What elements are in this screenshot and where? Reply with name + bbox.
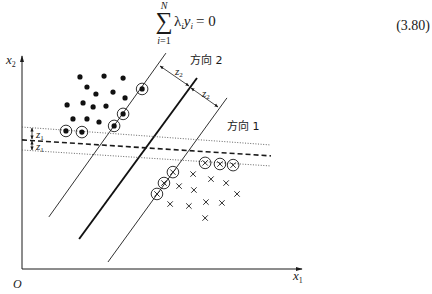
- dot-marker: [101, 73, 106, 78]
- negative-point: [202, 215, 207, 220]
- z2-label-lower: z2: [201, 87, 210, 101]
- direction-1-separator: [22, 140, 271, 156]
- negative-support-vectors-point: [214, 158, 226, 170]
- dot-marker: [91, 104, 96, 109]
- equation-rhs: = 0: [196, 13, 216, 29]
- sum-lower-limit: i=1: [157, 35, 170, 46]
- positive-point: [77, 74, 82, 79]
- negative-support-vectors-point: [199, 157, 211, 169]
- dot-marker: [93, 91, 98, 96]
- direction-2-label: 方向 2: [190, 53, 223, 67]
- positive-point: [64, 102, 69, 107]
- dot-marker: [84, 116, 89, 121]
- positive-support-vectors-point: [76, 126, 88, 138]
- direction-1-margin-bottom: [22, 150, 271, 166]
- y-subscript: i: [190, 21, 193, 31]
- x2-axis-label: x2: [5, 52, 16, 69]
- direction-2-margin-right: [108, 98, 227, 262]
- negative-support-vectors-series: [151, 157, 239, 200]
- dot-marker: [70, 116, 75, 121]
- svm-margin-figure: ∑ N i=1 λiyi= 0 (3.80) x2 x1 O z2: [0, 0, 432, 294]
- negative-point: [219, 200, 224, 205]
- dot-marker: [122, 95, 127, 100]
- dot-marker: [80, 100, 85, 105]
- dot-marker: [84, 84, 89, 89]
- z2-sub: 2: [179, 71, 183, 79]
- x1-axis-label: x1: [292, 268, 303, 285]
- dot-marker: [64, 102, 69, 107]
- dot-marker: [96, 119, 101, 124]
- z2-sub: 2: [206, 93, 210, 101]
- direction-2-separator: [79, 78, 197, 239]
- y-symbol: y: [182, 13, 191, 29]
- positive-point: [91, 104, 96, 109]
- origin-label: O: [13, 277, 22, 291]
- z1-label-lower: z1: [35, 140, 44, 154]
- negative-point: [191, 187, 196, 192]
- separating-lines: [22, 53, 271, 262]
- positive-point: [84, 116, 89, 121]
- sum-symbol: ∑: [155, 8, 172, 35]
- negative-series: [167, 171, 239, 220]
- negative-point: [186, 203, 191, 208]
- negative-support-vectors-point: [167, 166, 179, 178]
- dot-marker: [140, 86, 145, 91]
- x2-sub: 2: [12, 60, 16, 69]
- positive-point: [96, 119, 101, 124]
- z1-sub: 1: [40, 146, 44, 154]
- direction-1-label: 方向 1: [227, 119, 260, 133]
- negative-point: [203, 199, 208, 204]
- dot-marker: [110, 89, 115, 94]
- positive-point: [93, 91, 98, 96]
- positive-support-vectors-point: [60, 125, 72, 137]
- data-points: [60, 73, 240, 220]
- positive-point: [110, 89, 115, 94]
- sum-upper-limit: N: [160, 0, 169, 11]
- negative-support-vectors-point: [158, 177, 170, 189]
- dot-marker: [112, 123, 117, 128]
- equation-number: (3.80): [396, 18, 430, 34]
- negative-support-vectors-point: [151, 188, 163, 200]
- dot-marker: [79, 129, 84, 134]
- z1-sub: 1: [40, 134, 44, 142]
- positive-point: [80, 100, 85, 105]
- positive-support-vectors-series: [60, 83, 148, 138]
- negative-support-vectors-point: [227, 159, 239, 171]
- equation: ∑ N i=1 λiyi= 0 (3.80): [155, 0, 430, 46]
- z2-label-upper: z2: [174, 65, 183, 79]
- dot-marker: [77, 74, 82, 79]
- negative-point: [167, 201, 172, 206]
- equation-body: λiyi= 0: [174, 13, 216, 31]
- positive-point: [122, 95, 127, 100]
- dot-marker: [120, 111, 125, 116]
- positive-support-vectors-point: [117, 108, 129, 120]
- sum-lower-rest: =1: [160, 35, 171, 46]
- positive-support-vectors-point: [136, 83, 148, 95]
- positive-point: [120, 75, 125, 80]
- negative-point: [208, 176, 213, 181]
- axes: x2 x1 O: [5, 52, 303, 291]
- direction-2-margin-left: [49, 53, 166, 217]
- negative-point: [234, 191, 239, 196]
- positive-point: [103, 103, 108, 108]
- negative-point: [190, 171, 195, 176]
- negative-point: [176, 183, 181, 188]
- positive-support-vectors-point: [108, 120, 120, 132]
- dot-marker: [103, 103, 108, 108]
- negative-point: [223, 180, 228, 185]
- positive-point: [84, 84, 89, 89]
- x1-sub: 1: [299, 276, 303, 285]
- positive-point: [70, 116, 75, 121]
- positive-point: [101, 73, 106, 78]
- dot-marker: [120, 75, 125, 80]
- dot-marker: [63, 128, 68, 133]
